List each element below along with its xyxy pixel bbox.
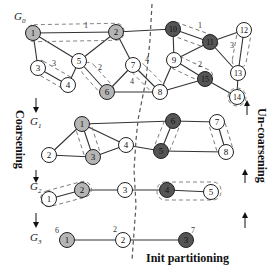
- graph-node: 8: [219, 145, 234, 160]
- svg-text:3: 3: [123, 185, 128, 195]
- graph-node: 5: [204, 185, 219, 200]
- svg-text:12: 12: [240, 26, 248, 35]
- init-partitioning-label: Init partitioning: [146, 251, 229, 265]
- weight-label: 2: [198, 60, 202, 69]
- graph-node: 6: [166, 114, 181, 129]
- graph-node: 4: [160, 183, 175, 198]
- level-label-g1: G1: [30, 115, 41, 130]
- uncoarsening-arrows: [245, 103, 247, 228]
- graph-node: 4: [119, 138, 134, 153]
- graph-node: 5: [154, 144, 169, 159]
- graph-node: 1: [42, 192, 57, 207]
- svg-text:3: 3: [91, 152, 96, 162]
- graph-node: 10: [166, 22, 181, 37]
- svg-text:2: 2: [80, 185, 85, 195]
- g1-nodes: 1 2 3 4 5 6 7 8: [42, 114, 234, 165]
- svg-text:6: 6: [105, 87, 110, 97]
- graph-node: 12: [237, 23, 252, 38]
- svg-text:11: 11: [206, 38, 214, 47]
- svg-text:13: 13: [234, 69, 242, 78]
- graph-node: 14: [230, 90, 245, 105]
- node-weight: 7: [191, 226, 195, 235]
- svg-text:8: 8: [158, 87, 163, 97]
- graph-node: 3: [118, 183, 133, 198]
- uncoarsening-label: Un-coarsening: [255, 108, 269, 183]
- level-label-g0: G0: [14, 10, 26, 25]
- svg-text:3: 3: [36, 63, 41, 73]
- partition-cut-line: [132, 4, 152, 260]
- svg-text:7: 7: [131, 60, 136, 70]
- graph-node: 11: [203, 35, 218, 50]
- svg-text:2: 2: [121, 235, 126, 245]
- level-label-g2: G2: [30, 180, 42, 195]
- graph-node: 15: [198, 72, 213, 87]
- svg-text:5: 5: [209, 187, 214, 197]
- svg-text:1: 1: [80, 119, 85, 129]
- weight-label: 3: [52, 59, 56, 68]
- svg-text:5: 5: [159, 146, 164, 156]
- graph-node: 2: [109, 25, 124, 40]
- weight-label: 2: [98, 63, 102, 72]
- graph-node: 3: [86, 150, 101, 165]
- node-weight: 2: [113, 225, 117, 234]
- svg-text:1: 1: [65, 235, 70, 245]
- graph-node: 5: [72, 54, 87, 69]
- graph-node: 9: [167, 53, 182, 68]
- svg-text:15: 15: [201, 75, 209, 84]
- svg-text:7: 7: [215, 117, 220, 127]
- graph-node: 7: [126, 58, 141, 73]
- graph-node: 1: [26, 26, 41, 41]
- graph-node: 1: [75, 117, 90, 132]
- graph-node: 2: [75, 183, 90, 198]
- weight-label: 3: [230, 41, 234, 50]
- g3-nodes: 16 22 37: [55, 225, 195, 248]
- graph-node: 2: [42, 148, 57, 163]
- svg-text:8: 8: [224, 147, 229, 157]
- graph-node: 16: [55, 226, 75, 248]
- svg-text:4: 4: [165, 185, 170, 195]
- weight-label: 1: [84, 21, 88, 30]
- graph-node: 37: [179, 226, 196, 248]
- graph-node: 8: [153, 85, 168, 100]
- svg-text:2: 2: [47, 150, 52, 160]
- level-label-g3: G3: [30, 231, 42, 246]
- svg-text:2: 2: [114, 27, 119, 37]
- multilevel-partitioning-diagram: 1 3 2 4 4 1 3 2 1 2 3 4 5 6 7 8 9 10 11 …: [0, 0, 277, 277]
- graph-node: 3: [31, 61, 46, 76]
- svg-text:4: 4: [124, 140, 129, 150]
- svg-text:1: 1: [31, 28, 36, 38]
- svg-text:9: 9: [172, 55, 177, 65]
- node-weight: 6: [55, 226, 59, 235]
- svg-text:3: 3: [184, 235, 189, 245]
- graph-node: 4: [61, 78, 76, 93]
- weight-label: 1: [198, 21, 202, 30]
- graph-node: 13: [231, 66, 246, 81]
- svg-text:4: 4: [66, 80, 71, 90]
- graph-node: 7: [210, 115, 225, 130]
- weight-label: 4: [130, 77, 134, 86]
- graph-node: 22: [113, 225, 131, 248]
- coarsening-label: Coarsening: [13, 110, 27, 169]
- graph-node: 6: [100, 85, 115, 100]
- svg-text:14: 14: [233, 93, 241, 102]
- svg-text:6: 6: [171, 116, 176, 126]
- svg-text:10: 10: [169, 25, 177, 34]
- svg-text:1: 1: [47, 194, 52, 204]
- svg-text:5: 5: [77, 56, 82, 66]
- g2-nodes: 1 2 3 4 5: [42, 183, 219, 207]
